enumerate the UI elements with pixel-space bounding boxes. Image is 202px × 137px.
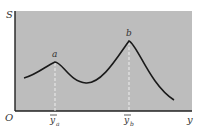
tick-a-subscript: a <box>56 120 60 127</box>
diagram: S y O a b y a y b <box>0 0 202 137</box>
plot-area <box>15 11 192 111</box>
x-axis-label: y <box>186 114 193 125</box>
peak-a-label: a <box>52 49 57 59</box>
tick-b-subscript: b <box>130 120 134 127</box>
peak-b-label: b <box>126 28 132 38</box>
y-axis-label: S <box>6 9 13 20</box>
origin-label: O <box>5 112 13 123</box>
tick-a-label: y <box>49 115 56 125</box>
tick-b-label: y <box>123 115 130 125</box>
